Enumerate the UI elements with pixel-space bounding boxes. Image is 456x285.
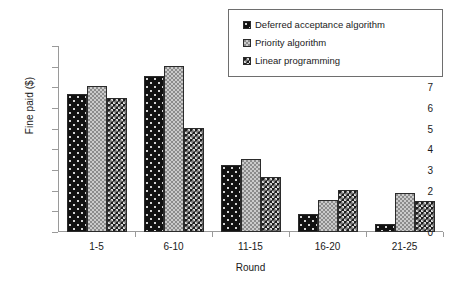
legend-item-label: Deferred acceptance algorithm [255,20,385,30]
bar[interactable] [261,177,281,232]
x-axis-tick-label: 21-25 [366,241,443,252]
bar-group-bars [135,46,212,232]
bar[interactable] [67,94,87,232]
bar[interactable] [395,193,415,232]
legend-item-linear-programming[interactable]: Linear programming [243,52,434,70]
x-axis-tick-label: 6-10 [135,241,212,252]
bar[interactable] [241,159,261,232]
legend-item-deferred-acceptance-algorithm[interactable]: Deferred acceptance algorithm [243,16,434,34]
x-axis-tick [212,232,213,237]
legend-item-priority-algorithm[interactable]: Priority algorithm [243,34,434,52]
bar[interactable] [164,66,184,232]
legend-swatch-icon [243,21,251,29]
x-axis-tick [289,232,290,237]
x-axis-tick-label: 11-15 [212,241,289,252]
bar[interactable] [144,76,164,232]
bar[interactable] [184,128,204,232]
bar[interactable] [87,86,107,232]
x-axis-tick-label: 16-20 [289,241,366,252]
bar[interactable] [221,165,241,232]
x-axis-title: Round [58,262,443,273]
legend-swatch-icon [243,57,251,65]
legend: Deferred acceptance algorithm Priority a… [228,9,443,77]
y-axis-title: Fine paid ($) [24,41,35,171]
bar[interactable] [318,200,338,232]
bar-group: 1-5 [58,46,135,232]
y-axis-tick [52,232,58,233]
bar[interactable] [375,224,395,232]
legend-swatch-icon [243,39,251,47]
bar[interactable] [107,98,127,232]
x-axis-tick [366,232,367,237]
x-axis-tick [443,232,444,237]
bar[interactable] [298,214,318,232]
bar-group: 6-10 [135,46,212,232]
legend-item-label: Priority algorithm [255,38,326,48]
legend-item-label: Linear programming [255,56,340,66]
bar[interactable] [415,201,435,232]
bar[interactable] [338,190,358,232]
x-axis-tick-label: 1-5 [58,241,135,252]
bar-group-bars [58,46,135,232]
bar-chart-figure: Fine paid ($) 0123456789 1-56-1011-1516-… [0,0,456,285]
x-axis-tick [135,232,136,237]
